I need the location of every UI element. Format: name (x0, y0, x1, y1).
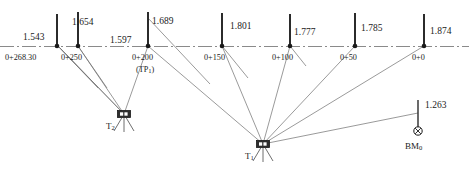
point-sta-150 (220, 44, 225, 49)
theodolite-icon-t1 (253, 141, 273, 163)
ray-ext-t1-b (222, 46, 248, 78)
benchmark-label: BM0 (405, 142, 422, 152)
tp-close-text: ) (152, 65, 155, 74)
reading-sta-50: 1.785 (361, 24, 382, 34)
instrument-label-t1: T1 (245, 152, 254, 162)
point-sta-250 (76, 44, 81, 49)
station-label-sta-268: 0+268.30 (5, 54, 36, 62)
turning-point-label: (TP1) (136, 66, 154, 75)
station-label-sta-200: 0+200 (132, 54, 153, 62)
station-label-sta-50: 0+50 (340, 54, 357, 62)
ray-ext-t1-a (148, 18, 210, 84)
point-sta-100 (288, 44, 293, 49)
reading-sta-200-backsight: 1.597 (110, 36, 131, 46)
tp-open-text: (TP (136, 65, 148, 74)
station-label-sta-0: 0+0 (412, 54, 425, 62)
sight-ray-extensions-t2 (57, 45, 107, 88)
instrument-label-t1-subscript: 1 (251, 154, 254, 161)
station-label-sta-150: 0+150 (204, 54, 225, 62)
reading-sta-0: 1.874 (430, 27, 451, 37)
benchmark-label-subscript: 0 (419, 144, 422, 151)
theodolite-icon-t2 (114, 111, 134, 133)
reading-sta-250: 1.654 (72, 18, 93, 28)
reading-bm0: 1.263 (425, 101, 446, 111)
point-sta-50 (353, 44, 358, 49)
reading-sta-100: 1.777 (294, 28, 315, 38)
station-label-sta-250: 0+250 (61, 54, 82, 62)
sight-line-t1-to-bm0 (263, 113, 418, 144)
reading-sta-268: 1.543 (23, 33, 44, 43)
profile-leveling-diagram: 1.543 1.654 1.597 1.689 1.801 1.777 1.78… (0, 0, 469, 173)
point-sta-200 (146, 44, 151, 49)
sight-line-t1-to-150 (222, 46, 263, 144)
instrument-label-t2: T2 (106, 122, 115, 132)
benchmark-icon (414, 127, 422, 135)
instrument-label-t2-subscript: 2 (112, 124, 115, 131)
reading-sta-200-foresight: 1.689 (152, 17, 173, 27)
point-sta-268 (55, 44, 60, 49)
point-sta-0 (422, 44, 427, 49)
station-label-sta-100: 0+100 (272, 54, 293, 62)
reading-sta-150: 1.801 (230, 22, 251, 32)
benchmark-label-text: BM (405, 141, 419, 151)
